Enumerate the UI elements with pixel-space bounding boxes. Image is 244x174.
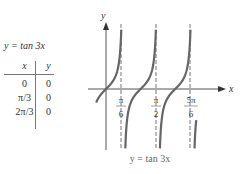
tick-label-denominator: 6: [189, 109, 194, 119]
tick-label-denominator: 2: [154, 109, 159, 119]
graph-caption: y = tan 3x: [130, 153, 170, 164]
tangent-branch: [96, 30, 121, 103]
x-axis-arrow-icon: [218, 86, 226, 92]
tangent-graph: y x π 6 π 2 5π 6 y = tan 3x: [0, 0, 244, 174]
tick-label-denominator: 6: [119, 109, 124, 119]
tick-label-numerator: 5π: [186, 95, 196, 105]
y-axis-arrow-icon: [103, 22, 109, 30]
x-axis-label: x: [228, 83, 234, 94]
tick-label-numerator: π: [154, 95, 159, 105]
y-axis-label: y: [100, 10, 106, 21]
tick-label-numerator: π: [119, 95, 124, 105]
tangent-branch: [195, 120, 197, 148]
